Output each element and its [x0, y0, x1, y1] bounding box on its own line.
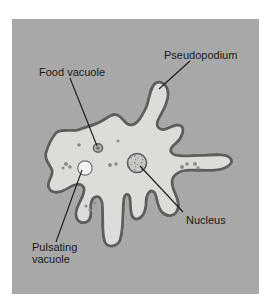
- pulsating-vacuole: [78, 161, 92, 175]
- food-vacuole: [93, 144, 102, 152]
- label-food-vacuole: Food vacuole: [39, 66, 105, 78]
- label-pseudopodium: Pseudopodium: [164, 49, 237, 61]
- label-nucleus: Nucleus: [186, 214, 226, 226]
- pseudopodium-leader: [159, 61, 190, 89]
- label-pulsating-vacuole-line2: vacuole: [32, 253, 70, 265]
- label-pulsating-vacuole-line1: Pulsating: [32, 241, 77, 253]
